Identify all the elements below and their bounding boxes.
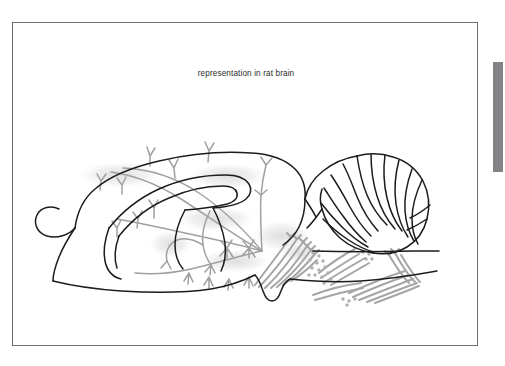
figure-frame: representation in rat brain <box>12 22 478 346</box>
document-viewer: representation in rat brain <box>0 0 505 366</box>
vertical-scrollbar-track[interactable] <box>493 0 505 366</box>
rat-brain-sagittal-diagram <box>13 23 479 347</box>
vertical-scrollbar-thumb[interactable] <box>493 62 503 172</box>
